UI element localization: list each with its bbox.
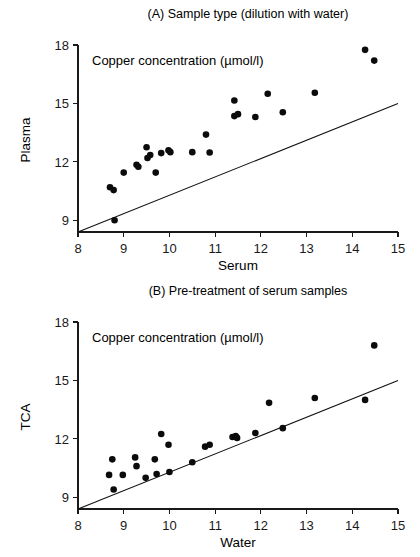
data-point xyxy=(252,114,259,121)
panel-a-x-ticks: 89101112131415 xyxy=(74,232,405,256)
scatter-plot-b: (B) Pre-treatment of serum samples Coppe… xyxy=(0,277,420,557)
data-point xyxy=(135,163,142,170)
panel-a-x-tick-label: 9 xyxy=(120,241,127,256)
data-point xyxy=(153,471,160,478)
panel-a-x-tick-label: 8 xyxy=(74,241,81,256)
panel-b-x-ticks: 89101112131415 xyxy=(74,509,405,533)
data-point xyxy=(147,152,154,159)
panel-b-y-tick-label: 15 xyxy=(55,373,69,388)
panel-b-data-points xyxy=(106,342,378,493)
data-point xyxy=(371,57,378,64)
panel-b-x-tick-label: 15 xyxy=(391,518,405,533)
data-point xyxy=(106,472,113,479)
panel-b-y-ticks: 9121518 xyxy=(55,315,78,505)
panel-a-x-tick-label: 13 xyxy=(299,241,313,256)
panel-a-annotation: Copper concentration (µmol/l) xyxy=(92,53,264,68)
data-point xyxy=(133,463,140,470)
panel-a-y-tick-label: 18 xyxy=(55,38,69,53)
data-point xyxy=(203,131,210,138)
panel-b-x-tick-label: 9 xyxy=(120,518,127,533)
data-point xyxy=(109,456,116,463)
data-point xyxy=(206,441,213,448)
data-point xyxy=(206,149,213,156)
data-point xyxy=(166,469,173,476)
data-point xyxy=(252,430,259,437)
panel-b-x-axis-title: Water xyxy=(220,535,256,550)
data-point xyxy=(110,486,117,493)
data-point xyxy=(266,400,273,407)
panel-a-x-tick-label: 14 xyxy=(345,241,359,256)
data-point xyxy=(231,97,238,104)
panel-b-reference-line xyxy=(78,380,398,509)
data-point xyxy=(132,454,139,461)
chart-panel-a: (A) Sample type (dilution with water) Co… xyxy=(0,0,420,280)
panel-b-y-axis-title: TCA xyxy=(18,404,33,431)
panel-a-x-tick-label: 12 xyxy=(254,241,268,256)
data-point xyxy=(234,435,241,442)
panel-b-y-tick-label: 9 xyxy=(62,490,69,505)
data-point xyxy=(312,89,319,96)
data-point xyxy=(189,459,196,466)
panel-a-reference-line xyxy=(78,103,398,232)
data-point xyxy=(111,217,118,224)
panel-a-y-ticks: 9121518 xyxy=(55,38,78,228)
panel-b-x-tick-label: 10 xyxy=(162,518,176,533)
data-point xyxy=(152,169,159,176)
panel-a-y-axis-title: Plasma xyxy=(18,117,33,163)
panel-a-x-axis-title: Serum xyxy=(218,258,258,273)
data-point xyxy=(158,431,165,438)
panel-a-y-tick-label: 15 xyxy=(55,96,69,111)
data-point xyxy=(312,395,319,402)
data-point xyxy=(362,47,369,54)
data-point xyxy=(264,90,271,97)
panel-b-y-tick-label: 12 xyxy=(55,432,69,447)
data-point xyxy=(142,475,149,482)
panel-a-x-tick-label: 15 xyxy=(391,241,405,256)
data-point xyxy=(235,111,242,118)
data-point xyxy=(110,187,117,194)
panel-a-x-tick-label: 11 xyxy=(208,241,222,256)
panel-b-annotation: Copper concentration (µmol/l) xyxy=(92,330,264,345)
panel-a-title: (A) Sample type (dilution with water) xyxy=(148,7,349,21)
data-point xyxy=(152,456,159,463)
data-point xyxy=(371,342,378,349)
panel-b-x-tick-label: 11 xyxy=(208,518,222,533)
panel-a-data-points xyxy=(107,47,378,224)
data-point xyxy=(120,169,127,176)
panel-b-x-tick-label: 14 xyxy=(345,518,359,533)
panel-b-x-tick-label: 8 xyxy=(74,518,81,533)
data-point xyxy=(167,149,174,156)
data-point xyxy=(280,109,287,116)
panel-a-y-tick-label: 9 xyxy=(62,213,69,228)
panel-b-x-tick-label: 13 xyxy=(299,518,313,533)
data-point xyxy=(158,150,165,157)
data-point xyxy=(189,149,196,156)
chart-panel-b: (B) Pre-treatment of serum samples Coppe… xyxy=(0,277,420,557)
panel-a-y-tick-label: 12 xyxy=(55,155,69,170)
figure-root: (A) Sample type (dilution with water) Co… xyxy=(0,0,420,557)
panel-b-x-tick-label: 12 xyxy=(254,518,268,533)
data-point xyxy=(165,441,172,448)
panel-a-x-tick-label: 10 xyxy=(162,241,176,256)
data-point xyxy=(362,397,369,404)
panel-b-title: (B) Pre-treatment of serum samples xyxy=(149,284,348,298)
data-point xyxy=(120,472,127,479)
panel-b-y-tick-label: 18 xyxy=(55,315,69,330)
data-point xyxy=(280,425,287,432)
scatter-plot-a: (A) Sample type (dilution with water) Co… xyxy=(0,0,420,280)
data-point xyxy=(143,144,150,151)
